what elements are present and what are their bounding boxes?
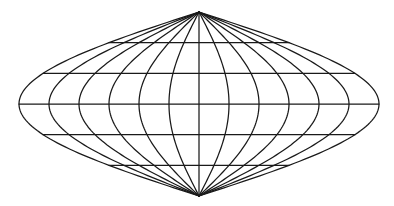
sinusoidal-projection-diagram xyxy=(0,0,394,206)
